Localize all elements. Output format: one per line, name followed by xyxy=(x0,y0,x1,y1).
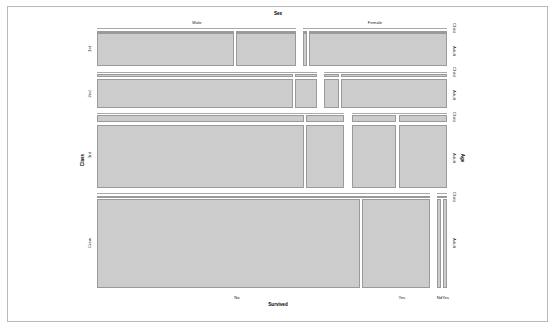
spine-rule-3rd-female xyxy=(352,113,447,114)
tile-3rd-female-adult-yes[interactable] xyxy=(399,125,447,188)
spine-rule-2nd-male xyxy=(97,72,317,73)
spine-rule-1st-female xyxy=(303,28,447,29)
tile-1st-male-adult-yes[interactable] xyxy=(236,33,296,66)
spine-rule-crew-female xyxy=(437,193,447,194)
left-axis-tick-crew: Crew xyxy=(88,238,92,248)
left-axis-title: Class xyxy=(81,154,86,166)
top-axis-tick-female: Female xyxy=(368,21,382,25)
mosaic-plot-figure: Sex Male Female 1st 2nd 3rd Crew Class C… xyxy=(0,0,557,330)
tile-2nd-male-adult-yes[interactable] xyxy=(295,79,317,108)
tile-3rd-male-child-yes[interactable] xyxy=(306,115,344,122)
right-axis-tick-crew-child: Child xyxy=(452,192,456,202)
tile-crew-female-adult-no[interactable] xyxy=(437,199,441,288)
left-axis-tick-1st: 1st xyxy=(88,46,92,52)
tile-3rd-female-child-yes[interactable] xyxy=(399,115,447,122)
spine-rule-1st-male xyxy=(97,28,296,29)
spine-rule-crew-male xyxy=(97,193,430,194)
tile-2nd-female-adult-no[interactable] xyxy=(324,79,339,108)
right-axis-tick-2nd-child: Child xyxy=(452,67,456,77)
top-axis-tick-male: Male xyxy=(192,21,201,25)
tile-3rd-female-child-no[interactable] xyxy=(352,115,396,122)
tile-1st-female-adult-yes[interactable] xyxy=(309,33,447,66)
tile-2nd-male-child-no[interactable] xyxy=(97,74,293,77)
tile-3rd-female-adult-no[interactable] xyxy=(352,125,396,188)
tile-2nd-female-child-no[interactable] xyxy=(324,74,339,77)
tile-crew-male-child-yes[interactable] xyxy=(97,196,99,198)
tile-crew-female-child-no[interactable] xyxy=(437,196,447,198)
left-axis-tick-3rd: 3rd xyxy=(88,152,92,158)
tile-3rd-male-adult-yes[interactable] xyxy=(306,125,344,188)
bottom-axis-tick-no: No xyxy=(234,296,239,300)
bottom-axis-tick-yes: Yes xyxy=(399,296,406,300)
tile-crew-male-child-no[interactable] xyxy=(97,196,430,198)
tile-2nd-female-child-yes[interactable] xyxy=(341,74,447,77)
bottom-axis-tick-ndyes: NdYes xyxy=(437,296,449,300)
tile-1st-female-adult-no[interactable] xyxy=(303,33,307,66)
tile-2nd-female-adult-yes[interactable] xyxy=(341,79,447,108)
top-axis-title: Sex xyxy=(274,12,282,17)
tile-2nd-male-adult-no[interactable] xyxy=(97,79,293,108)
spine-rule-2nd-female xyxy=(324,72,447,73)
right-axis-tick-3rd-child: Child xyxy=(452,112,456,122)
right-axis-tick-1st-child: Child xyxy=(452,23,456,33)
bottom-axis-title: Survived xyxy=(268,303,287,308)
tile-1st-male-adult-no[interactable] xyxy=(97,33,234,66)
tile-3rd-male-child-no[interactable] xyxy=(97,115,304,122)
right-axis-title: Age xyxy=(460,154,465,163)
tile-crew-male-adult-yes[interactable] xyxy=(362,199,430,288)
tile-3rd-male-adult-no[interactable] xyxy=(97,125,304,188)
tile-2nd-male-child-yes[interactable] xyxy=(295,74,317,77)
right-axis-tick-1st-adult: Adult xyxy=(452,46,456,56)
right-axis-tick-crew-adult: Adult xyxy=(452,238,456,248)
left-axis-tick-2nd: 2nd xyxy=(88,90,92,97)
right-axis-tick-2nd-adult: Adult xyxy=(452,90,456,100)
tile-crew-female-adult-yes[interactable] xyxy=(443,199,447,288)
right-axis-tick-3rd-adult: Adult xyxy=(452,153,456,163)
tile-crew-male-adult-no[interactable] xyxy=(97,199,360,288)
spine-rule-3rd-male xyxy=(97,113,344,114)
